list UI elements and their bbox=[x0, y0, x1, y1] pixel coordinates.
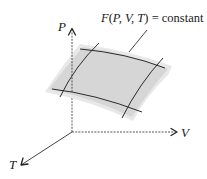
pvt-surface-diagram bbox=[0, 0, 207, 179]
function-name: F bbox=[101, 11, 109, 25]
t-axis-label: T bbox=[9, 158, 16, 171]
equals-constant: = constant bbox=[149, 11, 204, 25]
state-surface bbox=[45, 43, 172, 121]
surface-equation-label: F(P, V, T) = constant bbox=[101, 12, 203, 25]
t-axis bbox=[21, 132, 72, 165]
p-axis-label: P bbox=[58, 20, 66, 33]
label-leader-line bbox=[129, 30, 147, 52]
v-axis-label: V bbox=[181, 126, 189, 139]
v-axis bbox=[72, 129, 177, 136]
function-args: P, V, T bbox=[113, 11, 145, 25]
